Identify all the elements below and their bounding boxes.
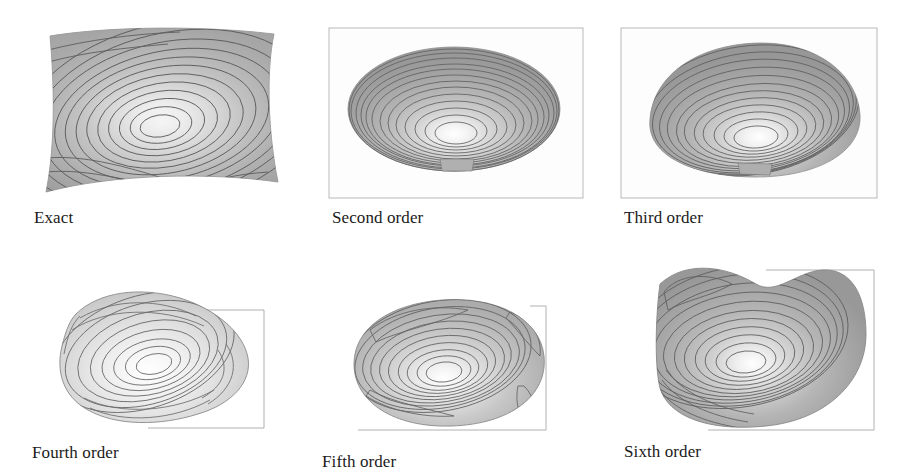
panel-third-order: Third order (620, 27, 878, 199)
panel-second-order: Second order (328, 27, 584, 199)
panel-exact: Exact (28, 22, 296, 200)
surface-plot-third-order (620, 27, 878, 199)
figure-grid: Exact (0, 0, 912, 476)
panel-label-third-order: Third order (624, 208, 703, 228)
panel-label-fifth-order: Fifth order (322, 452, 396, 472)
panel-label-exact: Exact (34, 208, 73, 228)
panel-fourth-order: Fourth order (28, 258, 276, 436)
panel-label-fourth-order: Fourth order (32, 443, 119, 463)
panel-fifth-order: Fifth order (318, 268, 578, 444)
panel-sixth-order: Sixth order (616, 252, 882, 438)
surface-plot-second-order (328, 27, 584, 199)
surface-plot-fourth-order (28, 258, 276, 436)
front-notch (440, 159, 474, 171)
panel-label-sixth-order: Sixth order (624, 442, 701, 462)
surface-plot-fifth-order (318, 268, 578, 444)
surface-plot-exact (28, 22, 296, 200)
front-notch (738, 163, 772, 175)
panel-label-second-order: Second order (332, 208, 423, 228)
surface-body (60, 292, 249, 423)
surface-body (348, 47, 560, 171)
surface-plot-sixth-order (616, 252, 882, 438)
